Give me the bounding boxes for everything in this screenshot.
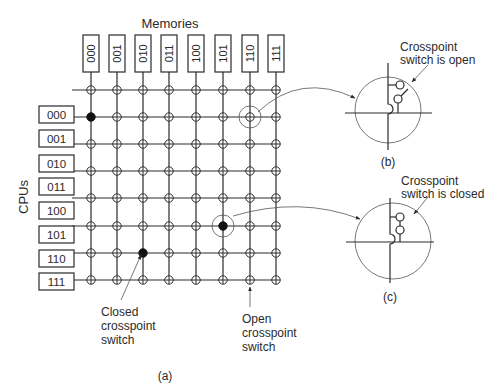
cpu-module-110: 110 bbox=[39, 250, 74, 267]
memory-label: 001 bbox=[111, 44, 123, 62]
memory-label: 011 bbox=[163, 45, 175, 63]
memories-heading: Memories bbox=[141, 16, 199, 31]
memory-module-001: 001 bbox=[109, 35, 125, 72]
detail-open-label: Crosspoint switch is open bbox=[400, 40, 475, 67]
crossbar-grid bbox=[72, 72, 280, 284]
closed-switch-pointer bbox=[121, 255, 141, 300]
cpu-label: 100 bbox=[47, 205, 66, 217]
cpu-module-001: 001 bbox=[39, 130, 74, 147]
memory-module-010: 010 bbox=[135, 35, 151, 72]
detail-closed-switch: Crosspoint switch is closed (c) bbox=[346, 174, 484, 304]
memory-module-101: 101 bbox=[215, 35, 231, 72]
cpu-label: 111 bbox=[48, 276, 65, 288]
open-switch-label: Open crosspoint switch bbox=[242, 312, 300, 354]
cpu-module-100: 100 bbox=[39, 202, 74, 219]
cpu-label: 101 bbox=[47, 229, 66, 241]
arrow-to-detail-c bbox=[233, 207, 360, 219]
cpu-label: 001 bbox=[47, 133, 66, 145]
memory-label: 100 bbox=[190, 44, 202, 62]
closed-crosspoint bbox=[219, 222, 227, 230]
memory-modules: 000001010011100101110111 bbox=[83, 35, 284, 72]
cpus-axis-label: CPUs bbox=[16, 180, 31, 214]
memory-label: 101 bbox=[217, 44, 229, 62]
memory-module-110: 110 bbox=[242, 35, 258, 72]
closed-switch-label: Closed crosspoint switch bbox=[101, 305, 159, 347]
cpu-module-000: 000 bbox=[39, 106, 74, 123]
memory-module-011: 011 bbox=[161, 35, 177, 72]
cpu-label: 000 bbox=[47, 109, 66, 121]
cpu-module-101: 101 bbox=[39, 226, 74, 243]
cpu-module-111: 111 bbox=[39, 273, 74, 290]
closed-crosspoint bbox=[139, 249, 147, 257]
memory-label: 111 bbox=[270, 45, 282, 62]
memory-label: 110 bbox=[244, 45, 256, 63]
cpu-label: 011 bbox=[47, 181, 65, 193]
memory-module-111: 111 bbox=[268, 35, 284, 72]
crossbar-switch-diagram: Memories CPUs 000001010011100101110111 0… bbox=[0, 0, 495, 389]
cpu-module-011: 011 bbox=[39, 178, 74, 195]
caption-b: (b) bbox=[381, 155, 396, 169]
closed-crosspoint bbox=[87, 113, 95, 121]
caption-c: (c) bbox=[383, 290, 397, 304]
cpu-label: 010 bbox=[47, 158, 66, 170]
cpu-module-010: 010 bbox=[39, 155, 74, 172]
memory-label: 010 bbox=[137, 44, 149, 62]
memory-module-100: 100 bbox=[188, 35, 204, 72]
detail-open-switch: Crosspoint switch is open (b) bbox=[345, 40, 475, 169]
cpu-modules: 000001010011100101110111 bbox=[39, 106, 74, 290]
memory-module-000: 000 bbox=[83, 35, 99, 72]
memory-label: 000 bbox=[85, 44, 97, 62]
detail-closed-label: Crosspoint switch is closed bbox=[401, 174, 484, 201]
cpu-label: 110 bbox=[47, 253, 65, 265]
caption-a: (a) bbox=[158, 369, 173, 383]
